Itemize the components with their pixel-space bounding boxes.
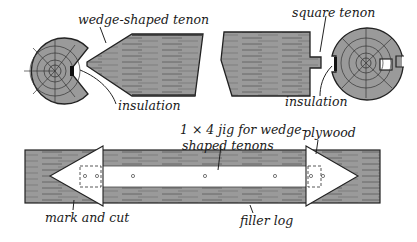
wedge-tenon-log: [87, 34, 203, 96]
square-tenon-log: [221, 32, 321, 96]
label-mark-and-cut: mark and cut: [45, 210, 130, 225]
jig-board: [70, 166, 320, 187]
label-insulation-left: insulation: [118, 98, 181, 113]
label-jig-line1: 1 × 4 jig for wedge-: [180, 122, 306, 137]
insulation-strip-left: [70, 66, 74, 76]
insulation-strip-right: [334, 57, 337, 71]
label-insulation-right: insulation: [285, 94, 348, 109]
right-log-cross-section: [332, 28, 417, 100]
filler-log: [25, 146, 380, 206]
label-jig-line2: shaped tenons: [182, 138, 274, 153]
label-filler-log: filler log: [239, 213, 293, 228]
left-log-cross-section: [24, 38, 88, 104]
label-square-tenon: square tenon: [292, 5, 375, 20]
label-wedge-shaped-tenon: wedge-shaped tenon: [78, 12, 209, 27]
log-joint-diagram: wedge-shaped tenon insulation square ten…: [0, 0, 417, 242]
label-plywood: plywood: [303, 125, 356, 140]
